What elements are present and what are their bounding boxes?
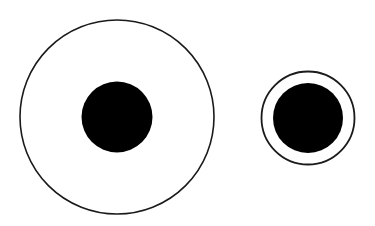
right-inner-disc	[273, 83, 343, 153]
left-figure	[20, 20, 214, 214]
right-figure	[262, 72, 355, 165]
delboeuf-illusion-canvas	[0, 0, 375, 226]
left-inner-disc	[82, 82, 153, 153]
